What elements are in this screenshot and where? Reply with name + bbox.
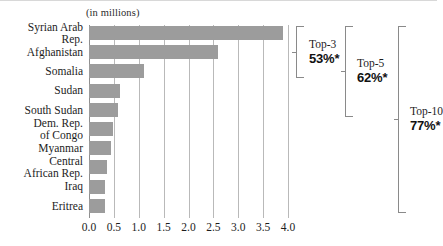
bracket-top-3 [296, 26, 305, 78]
annotation-title: Top-3 [309, 37, 339, 51]
bar-row [89, 199, 288, 213]
bar [89, 122, 113, 136]
annotation-value: 77%* [410, 118, 443, 133]
annotation-top-3: Top-353%* [309, 37, 339, 66]
category-label-line: Rep. [28, 33, 83, 46]
bar [89, 199, 105, 213]
category-label-line: of Congo [33, 129, 83, 142]
x-tick-label: 2.0 [181, 221, 195, 233]
category-label-line: Syrian Arab [28, 21, 83, 34]
bracket-spine [398, 26, 399, 213]
bracket-arm-bottom [296, 77, 304, 78]
category-label-line: Eritrea [52, 200, 83, 213]
annotation-top-5: Top-562%* [357, 56, 387, 85]
x-tick-label: 1.0 [132, 221, 146, 233]
bracket-tick [341, 71, 345, 72]
bar [89, 45, 218, 59]
bracket-arm-top [296, 26, 304, 27]
category-label: Syrian ArabRep. [28, 21, 83, 46]
bar-row [89, 84, 288, 98]
bar [89, 180, 105, 194]
bracket-arm-top [345, 26, 353, 27]
category-label-line: Central [24, 155, 83, 168]
annotation-value: 62%* [357, 70, 387, 85]
category-axis-labels: Syrian ArabRep.AfghanistanSomaliaSudanSo… [0, 25, 86, 218]
category-label-line: Iraq [64, 180, 83, 193]
category-label: South Sudan [25, 104, 83, 117]
annotation-top-10: Top-1077%* [410, 104, 443, 133]
bar [89, 64, 144, 78]
x-tick-label: 0.5 [107, 221, 121, 233]
bar-row [89, 180, 288, 194]
x-tick-label: 1.5 [156, 221, 170, 233]
bar-row [89, 45, 288, 59]
category-label: Sudan [54, 84, 83, 97]
bracket-arm-bottom [345, 116, 353, 117]
annotation-value: 53%* [309, 51, 339, 66]
x-tick-label: 2.5 [206, 221, 220, 233]
category-label: Dem. Rep.of Congo [33, 117, 83, 142]
plot-area [89, 25, 288, 218]
annotation-title: Top-5 [357, 56, 387, 70]
bar [89, 141, 111, 155]
bar [89, 103, 118, 117]
bracket-spine [296, 26, 297, 78]
category-label-line: Sudan [54, 84, 83, 97]
category-label-line: South Sudan [25, 104, 83, 117]
bracket-tick [292, 52, 296, 53]
bracket-top-10 [398, 26, 407, 213]
x-tick-label: 4.0 [281, 221, 295, 233]
category-label: Somalia [45, 65, 83, 78]
category-label: Afghanistan [27, 46, 83, 59]
x-tick-label: 3.0 [231, 221, 245, 233]
category-label-line: Afghanistan [27, 46, 83, 59]
category-label-line: Dem. Rep. [33, 117, 83, 130]
units-caption: (in millions) [86, 7, 140, 18]
category-label: Myanmar [38, 142, 83, 155]
x-tick-label: 3.5 [256, 221, 270, 233]
bracket-arm-top [398, 26, 406, 27]
category-label: Eritrea [52, 200, 83, 213]
category-label: Iraq [64, 180, 83, 193]
category-label-line: Somalia [45, 65, 83, 78]
bracket-spine [345, 26, 346, 117]
scan-edge-rule [0, 0, 437, 1]
x-tick-label: 0.0 [82, 221, 96, 233]
bracket-top-5 [345, 26, 354, 117]
bar-row [89, 122, 288, 136]
bar-row [89, 160, 288, 174]
category-label-line: Myanmar [38, 142, 83, 155]
gridline-4.0 [288, 25, 289, 218]
category-label: CentralAfrican Rep. [24, 155, 83, 180]
category-label-line: African Rep. [24, 167, 83, 180]
annotation-title: Top-10 [410, 104, 443, 118]
x-axis-tick-labels: 0.00.51.01.52.02.53.03.54.0 [89, 221, 288, 239]
bar-row [89, 141, 288, 155]
bracket-tick [394, 119, 398, 120]
bar-row [89, 103, 288, 117]
bar-row [89, 64, 288, 78]
bar [89, 160, 107, 174]
bar [89, 84, 120, 98]
bar-row [89, 26, 288, 40]
bracket-arm-bottom [398, 212, 406, 213]
bar [89, 26, 283, 40]
